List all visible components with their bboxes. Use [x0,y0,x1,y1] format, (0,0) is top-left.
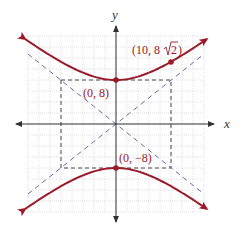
vertex-top-point [113,77,119,83]
point-10-8root2 [168,59,174,65]
y-axis-label: y [110,7,118,22]
point-label-prefix: (10, 8 [132,43,160,57]
vertex-bottom-label: (0, −8) [119,151,152,165]
point-label-radicand: 2 [171,43,177,57]
point-label-suffix: ) [178,43,182,57]
hyperbola-graph: x y (0, 8) (0, −8) (10, 8 2 ) [0,0,241,233]
x-axis-label: x [223,116,230,131]
point-label: (10, 8 2 ) [132,42,182,57]
vertex-top-label: (0, 8) [83,86,109,100]
vertex-bottom-point [113,165,119,171]
